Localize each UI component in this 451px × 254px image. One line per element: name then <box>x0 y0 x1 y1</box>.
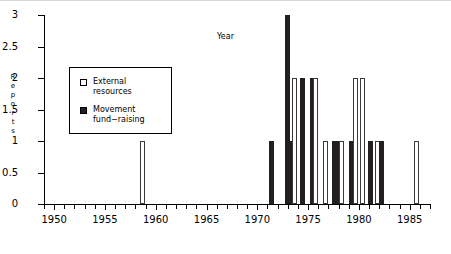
chart-figure: Reports 00.511.522.53 195019551960196519… <box>0 0 451 254</box>
x-tick-label: 1950 <box>41 214 66 225</box>
x-tick-minor <box>176 205 177 209</box>
x-tick-minor <box>217 205 218 209</box>
y-tick <box>38 173 44 174</box>
x-tick-minor <box>369 205 370 209</box>
y-axis-title-letter: t <box>8 118 18 127</box>
legend-label-movement: Movement fund−raising <box>93 105 145 125</box>
y-tick <box>38 78 44 79</box>
x-tick-major <box>156 205 157 210</box>
bar-movement <box>300 78 305 204</box>
x-tick-label: 1975 <box>295 214 320 225</box>
x-tick-minor <box>247 205 248 209</box>
x-tick-major <box>359 205 360 210</box>
external-swatch-icon <box>80 79 87 86</box>
x-tick-minor <box>267 205 268 209</box>
x-tick-minor <box>379 205 380 209</box>
bar-external <box>313 78 318 204</box>
y-tick-label: 0 <box>0 199 18 209</box>
x-tick-minor <box>328 205 329 209</box>
bar-external <box>339 141 344 204</box>
y-axis-title-letter: p <box>8 91 18 100</box>
chart-legend: External resources Movement fund−raising <box>69 67 172 134</box>
y-tick-label: 0.5 <box>0 168 18 178</box>
bar-external <box>292 78 297 204</box>
x-tick-minor <box>389 205 390 209</box>
x-tick-minor <box>74 205 75 209</box>
x-tick-minor <box>339 205 340 209</box>
x-tick-minor <box>95 205 96 209</box>
y-tick-label: 2 <box>0 73 18 83</box>
x-tick-minor <box>278 205 279 209</box>
y-tick <box>38 15 44 16</box>
bar-movement <box>379 141 384 204</box>
x-tick-minor <box>430 205 431 209</box>
x-tick-major <box>308 205 309 210</box>
x-tick-group: 19501955196019651970197519801985 <box>44 205 431 245</box>
bar-external <box>353 78 358 204</box>
x-tick-label: 1965 <box>194 214 219 225</box>
x-tick-minor <box>166 205 167 209</box>
x-tick-major <box>54 205 55 210</box>
bar-external <box>323 141 328 204</box>
x-tick-minor <box>44 205 45 209</box>
x-tick-label: 1970 <box>245 214 270 225</box>
x-tick-minor <box>420 205 421 209</box>
movement-swatch-icon <box>80 107 87 114</box>
legend-item-external: External resources <box>80 77 132 97</box>
y-tick <box>38 141 44 142</box>
x-tick-minor <box>298 205 299 209</box>
bar-external <box>140 141 145 204</box>
bar-movement <box>368 141 373 204</box>
x-tick-minor <box>135 205 136 209</box>
x-tick-major <box>207 205 208 210</box>
x-tick-minor <box>115 205 116 209</box>
y-tick-label: 1 <box>0 136 18 146</box>
x-tick-minor <box>237 205 238 209</box>
x-axis-title: Year <box>0 32 451 41</box>
x-tick-minor <box>400 205 401 209</box>
y-tick <box>38 47 44 48</box>
y-tick-label: 2.5 <box>0 42 18 52</box>
bar-movement <box>269 141 274 204</box>
x-tick-minor <box>196 205 197 209</box>
x-tick-major <box>105 205 106 210</box>
x-tick-minor <box>227 205 228 209</box>
bar-external <box>414 141 419 204</box>
x-tick-label: 1980 <box>346 214 371 225</box>
y-tick <box>38 110 44 111</box>
x-tick-minor <box>349 205 350 209</box>
bar-external <box>360 78 365 204</box>
y-tick-label: 3 <box>0 10 18 20</box>
x-tick-minor <box>85 205 86 209</box>
x-tick-major <box>257 205 258 210</box>
x-tick-minor <box>64 205 65 209</box>
x-tick-minor <box>125 205 126 209</box>
x-tick-minor <box>186 205 187 209</box>
x-tick-minor <box>288 205 289 209</box>
y-tick-label: 1.5 <box>0 105 18 115</box>
x-tick-label: 1960 <box>143 214 168 225</box>
x-tick-minor <box>146 205 147 209</box>
y-axis-title-letter: e <box>8 82 18 91</box>
legend-label-external: External resources <box>93 77 132 97</box>
x-tick-label: 1985 <box>397 214 422 225</box>
legend-item-movement: Movement fund−raising <box>80 105 145 125</box>
x-tick-major <box>410 205 411 210</box>
x-tick-minor <box>318 205 319 209</box>
x-tick-label: 1955 <box>92 214 117 225</box>
